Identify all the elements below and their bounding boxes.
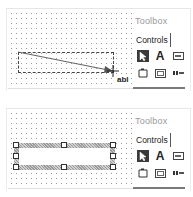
resize-handle-nw[interactable]: [13, 142, 19, 148]
textbox-icon: [173, 152, 184, 160]
form-designer-drawing: abl Toolbox Controls A: [0, 0, 193, 95]
more-controls-tool[interactable]: [172, 167, 184, 179]
toolbox-panel: Toolbox Controls A: [133, 110, 188, 190]
drag-arrow-icon: [16, 50, 122, 78]
resize-handle-ne[interactable]: [110, 142, 116, 148]
resize-handle-sw[interactable]: [13, 164, 19, 170]
frame-tool[interactable]: [137, 67, 149, 79]
resize-handle-e[interactable]: [110, 153, 116, 159]
pointer-icon: [139, 51, 148, 61]
tab-divider: [170, 33, 171, 47]
button-icon: [155, 69, 166, 78]
toolbox-bottom-border: [133, 187, 185, 189]
frame-icon: [138, 168, 148, 178]
resize-handle-se[interactable]: [110, 164, 116, 170]
more-controls-icon: [173, 170, 184, 176]
textbox-cursor-label: abl: [116, 75, 130, 84]
textbox-body[interactable]: [19, 148, 110, 165]
label-icon: A: [156, 49, 165, 63]
form-designer-created: Toolbox Controls A: [0, 100, 193, 195]
button-tool[interactable]: [154, 167, 166, 179]
toolbox-bottom-border: [133, 87, 185, 89]
label-icon: A: [156, 149, 165, 163]
textbox-tool[interactable]: [172, 50, 184, 62]
button-tool[interactable]: [154, 67, 166, 79]
resize-handle-n[interactable]: [61, 142, 67, 148]
more-controls-tool[interactable]: [172, 67, 184, 79]
frame-icon: [138, 68, 148, 78]
tab-controls[interactable]: Controls: [136, 135, 168, 145]
label-tool[interactable]: A: [154, 150, 166, 162]
tab-divider: [170, 133, 171, 147]
textbox-tool[interactable]: [172, 150, 184, 162]
resize-handle-w[interactable]: [13, 153, 19, 159]
more-controls-icon: [173, 70, 184, 76]
frame-tool[interactable]: [137, 167, 149, 179]
pointer-tool[interactable]: [137, 150, 149, 162]
pointer-icon: [139, 151, 148, 161]
button-icon: [155, 169, 166, 178]
toolbox-title: Toolbox: [135, 116, 167, 126]
textbox-control-selected[interactable]: [14, 143, 115, 170]
toolbox-title: Toolbox: [135, 16, 167, 26]
pointer-tool[interactable]: [137, 50, 149, 62]
tab-controls[interactable]: Controls: [136, 35, 168, 45]
toolbox-panel: Toolbox Controls A: [133, 10, 188, 90]
textbox-icon: [173, 52, 184, 60]
label-tool[interactable]: A: [154, 50, 166, 62]
resize-handle-s[interactable]: [61, 164, 67, 170]
canvas-edge: [8, 188, 133, 189]
canvas-edge: [8, 88, 133, 89]
